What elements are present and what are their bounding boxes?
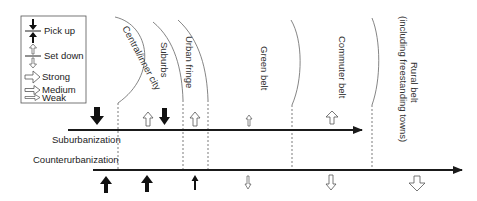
counterurbanization-pick-up-urban-fringe bbox=[192, 175, 199, 190]
suburbanization-label: Suburbanization bbox=[52, 134, 121, 145]
counterurbanization-pick-up-central bbox=[100, 176, 112, 193]
legend-label-pick-up: Pick up bbox=[44, 25, 75, 36]
zone-label-commuter-belt: Commuter belt bbox=[337, 36, 348, 99]
suburbanization-pick-up-central bbox=[90, 107, 104, 125]
counterurbanization-pick-up-suburbs bbox=[141, 175, 153, 192]
zone-sublabel-rural-belt: (including freestanding towns) bbox=[398, 16, 409, 142]
counterurbanization-set-down-rural-belt bbox=[409, 176, 425, 191]
counterurbanization-label: Counterurbanization bbox=[33, 154, 119, 165]
suburbanization-pick-up-suburbs bbox=[159, 108, 170, 125]
suburbanization-set-down-green-belt bbox=[246, 115, 252, 126]
legend: Pick up Set down Strong Medium Weak bbox=[21, 16, 86, 103]
urbanization-flow-diagram: Pick up Set down Strong Medium Weak bbox=[0, 0, 477, 201]
arc-commuter-belt bbox=[372, 18, 379, 105]
zone-label-central-inner-city: Central/inner city bbox=[120, 24, 163, 92]
legend-label-strong: Strong bbox=[42, 71, 70, 82]
zone-label-rural-belt: Rural belt bbox=[409, 62, 420, 103]
counterurbanization-set-down-green-belt bbox=[245, 176, 251, 189]
arc-green-belt bbox=[291, 20, 300, 105]
zone-dividers bbox=[118, 100, 372, 170]
legend-label-set-down: Set down bbox=[44, 50, 84, 61]
suburbanization-set-down-urban-fringe bbox=[190, 112, 200, 126]
suburbanization-set-down-suburbs bbox=[143, 112, 153, 126]
suburbanization-set-down-commuter-belt bbox=[326, 111, 338, 124]
zone-label-suburbs: Suburbs bbox=[159, 42, 170, 78]
zone-label-urban-fringe: Urban fringe bbox=[184, 36, 195, 88]
counterurbanization-set-down-commuter-belt bbox=[326, 175, 336, 190]
legend-label-weak: Weak bbox=[42, 92, 66, 103]
zone-label-green-belt: Green belt bbox=[259, 46, 270, 91]
